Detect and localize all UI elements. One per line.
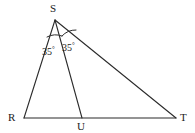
vertex-label-R: R bbox=[8, 112, 15, 123]
vertex-label-T: T bbox=[180, 112, 187, 123]
segment-RS bbox=[24, 20, 55, 118]
vertex-label-S: S bbox=[50, 3, 56, 14]
degree-symbol-icon: ° bbox=[72, 41, 75, 49]
geometry-canvas bbox=[0, 0, 195, 133]
segment-ST bbox=[55, 20, 176, 118]
vertex-label-U: U bbox=[77, 121, 85, 132]
angle-label-UST: 35° bbox=[62, 42, 75, 53]
angle-value-UST: 35 bbox=[62, 42, 72, 53]
angle-label-RSU: 35° bbox=[42, 46, 55, 57]
degree-symbol-icon: ° bbox=[52, 45, 55, 53]
triangle-outline bbox=[24, 20, 176, 118]
geometry-figure: S R U T 35° 35° bbox=[0, 0, 195, 133]
angle-value-RSU: 35 bbox=[42, 46, 52, 57]
